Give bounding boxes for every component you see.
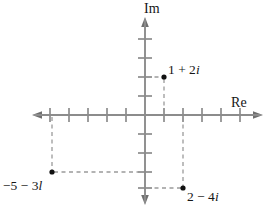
guides-point-2 — [147, 117, 183, 188]
axis-arrowheads — [32, 17, 263, 205]
point-label-1-plus-2i: 1 + 2i — [168, 62, 200, 78]
point-marker-1-plus-2i — [161, 74, 166, 79]
point-label-1-text: 1 + 2 — [168, 62, 196, 77]
point-marker-2-minus-4i — [180, 185, 185, 190]
imaginary-unit-icon: i — [196, 62, 200, 77]
guides-point-3 — [52, 117, 143, 172]
imaginary-unit-icon: i — [215, 189, 219, 204]
point-label-2-text: 2 − 4 — [187, 189, 215, 204]
real-axis-label: Re — [231, 95, 247, 111]
point-marker-minus5-minus-3i — [49, 169, 54, 174]
point-label-2-minus-4i: 2 − 4i — [187, 189, 219, 205]
imaginary-axis-label: Im — [144, 1, 160, 17]
point-label-minus5-minus-3i: −5 − 3l — [3, 178, 42, 194]
imaginary-unit-icon: l — [38, 178, 42, 193]
point-label-3-text: −5 − 3 — [3, 178, 38, 193]
plotted-points — [49, 74, 185, 190]
complex-plane-figure: Im Re 1 + 2i 2 − 4i −5 − 3l — [0, 0, 269, 209]
guides-point-1 — [147, 77, 164, 113]
